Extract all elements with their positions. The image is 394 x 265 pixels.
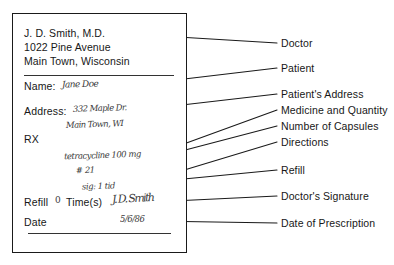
callout-label-number-of-capsules: Number of Capsules <box>281 120 379 132</box>
patient-address-line2-handwriting: Main Town, WI <box>66 118 124 130</box>
name-field-label: Name: <box>24 80 56 92</box>
quantity-handwriting: # 21 <box>76 165 95 176</box>
callout-label-doctors-signature: Doctor's Signature <box>281 190 369 202</box>
prescription-diagram: J. D. Smith, M.D. 1022 Pine Avenue Main … <box>0 0 394 265</box>
callout-label-refill: Refill <box>281 164 305 176</box>
patient-name-handwriting: Jane Doe <box>62 79 98 90</box>
patient-address-line1-handwriting: 332 Maple Dr. <box>73 102 127 114</box>
doctor-name-text: J. D. Smith, M.D. <box>24 27 105 39</box>
callout-label-medicine-quantity: Medicine and Quantity <box>281 104 388 116</box>
doctor-city-state-text: Main Town, Wisconsin <box>24 55 130 67</box>
callout-label-directions: Directions <box>281 136 329 148</box>
callout-label-patient-address: Patient's Address <box>281 88 364 100</box>
callout-label-doctor: Doctor <box>281 37 313 49</box>
refill-field-label: Refill <box>24 196 48 208</box>
date-field-label: Date <box>24 216 47 228</box>
doctor-signature-handwriting: J. D. Smith <box>112 191 154 206</box>
prescription-date-handwriting: 5/6/86 <box>120 214 144 224</box>
refill-count-handwriting: 0 <box>55 195 61 205</box>
footer-divider-rule <box>28 233 171 234</box>
callout-label-date-of-prescription: Date of Prescription <box>281 217 375 229</box>
callout-label-patient: Patient <box>281 62 314 74</box>
rx-label: RX <box>24 133 39 145</box>
header-divider-rule <box>24 75 174 76</box>
address-field-label: Address: <box>24 105 67 117</box>
directions-handwriting: sig: 1 tid <box>82 180 115 191</box>
doctor-street-text: 1022 Pine Avenue <box>24 41 111 53</box>
times-label: Time(s) <box>66 196 102 208</box>
